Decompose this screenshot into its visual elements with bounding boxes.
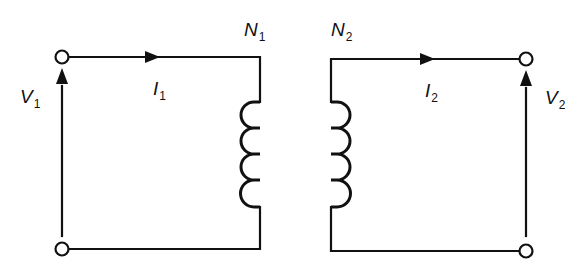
secondary-bottom-terminal [520,245,533,258]
primary-circuit: V1 I1 N1 [20,19,266,256]
primary-voltage-arrow-icon [56,68,68,84]
primary-bottom-wire [68,207,260,249]
secondary-bottom-wire [331,207,520,251]
secondary-coil [331,102,351,207]
primary-bottom-terminal [56,243,69,256]
secondary-voltage-arrow-icon [520,70,532,86]
secondary-circuit: V2 I2 N2 [331,19,566,258]
secondary-turns-label: N2 [331,19,353,44]
primary-current-arrow-icon [145,51,160,63]
primary-top-terminal [56,51,69,64]
secondary-voltage-label: V2 [545,87,566,112]
transformer-diagram: V1 I1 N1 V2 I2 N2 [0,0,584,274]
secondary-top-terminal [520,53,533,66]
primary-turns-label: N1 [244,19,266,44]
secondary-current-arrow-icon [420,53,435,65]
primary-voltage-label: V1 [20,86,41,111]
primary-coil [241,102,260,207]
secondary-current-label: I2 [425,80,438,105]
primary-current-label: I1 [153,78,166,103]
